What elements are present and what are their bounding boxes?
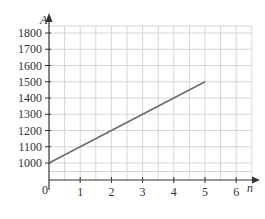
x-tick-label: 2 — [108, 185, 114, 199]
y-tick-label: 1600 — [18, 59, 42, 73]
line-chart: 1234561000110012001300140015001600170018… — [0, 0, 265, 219]
y-tick-label: 1700 — [18, 42, 42, 56]
y-tick-label: 1500 — [18, 75, 42, 89]
x-tick-label: 6 — [233, 185, 239, 199]
x-tick-label: 4 — [171, 185, 177, 199]
x-axis-arrow-icon — [252, 177, 260, 184]
x-axis-label: n — [247, 181, 253, 195]
x-tick-label: 5 — [202, 185, 208, 199]
origin-label: 0 — [42, 183, 48, 197]
y-tick-label: 1200 — [18, 124, 42, 138]
grid-lines — [49, 26, 252, 180]
x-tick-label: 3 — [140, 185, 146, 199]
tick-labels: 1234561000110012001300140015001600170018… — [18, 26, 239, 199]
y-tick-label: 1300 — [18, 107, 42, 121]
y-tick-label: 1400 — [18, 91, 42, 105]
y-tick-label: 1800 — [18, 26, 42, 40]
y-axis-label: A — [39, 13, 48, 27]
x-tick-label: 1 — [77, 185, 83, 199]
y-tick-label: 1000 — [18, 156, 42, 170]
y-tick-label: 1100 — [18, 140, 42, 154]
